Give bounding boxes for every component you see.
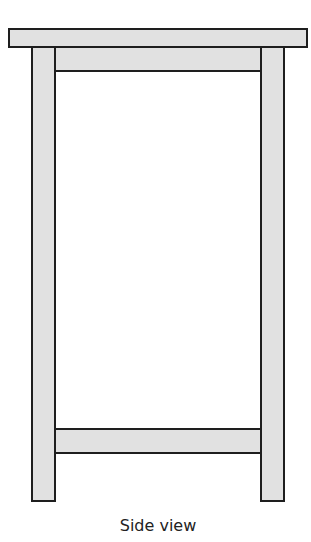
right-leg bbox=[260, 46, 285, 502]
apron bbox=[54, 46, 262, 72]
lower-stretcher bbox=[54, 428, 262, 454]
figure-caption: Side view bbox=[0, 516, 311, 535]
tabletop bbox=[8, 28, 308, 48]
left-leg bbox=[31, 46, 56, 502]
